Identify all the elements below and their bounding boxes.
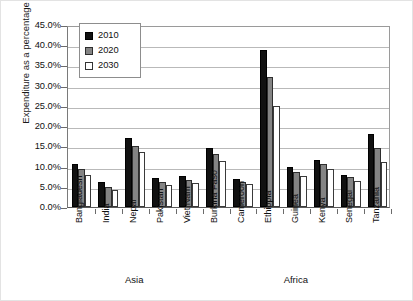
bar-ethiopia-2030[interactable] [273,106,280,207]
bar-ethiopia-2020[interactable] [267,77,274,207]
y-axis-tick-label: 15.0% [15,142,61,151]
y-axis-tick-label: 20.0% [15,122,61,131]
gridline [68,88,389,89]
bar-cameroon-2030[interactable] [246,184,253,207]
y-axis-tick-label: 45.0% [15,21,61,30]
y-axis-tick-label: 30.0% [15,82,61,91]
legend-item-2020[interactable]: 2020 [85,43,135,58]
x-axis-tick-mark [337,209,338,214]
legend-swatch-2020 [85,47,93,55]
x-axis-label-viet-nam: Viet Nam [183,186,192,223]
x-axis-tick-mark [95,209,96,214]
legend-item-2010[interactable]: 2010 [85,28,135,43]
bar-nepal-2020[interactable] [132,146,139,207]
x-axis-tick-mark [256,209,257,214]
x-axis-label-nepal: Nepal [129,199,138,223]
bar-group [122,138,149,207]
region-label-africa: Africa [256,274,336,285]
bar-burkina-faso-2030[interactable] [219,161,226,208]
chart-legend: 201020202030 [79,23,141,78]
bar-guinea-2030[interactable] [300,176,307,207]
bar-tanzania-2030[interactable] [381,162,388,207]
legend-label-2030: 2030 [98,61,119,70]
x-axis-tick-mark [149,209,150,214]
x-axis-tick-mark [364,209,365,214]
bar-ethiopia-2010[interactable] [260,50,267,207]
x-axis-tick-mark [230,209,231,214]
y-axis-tick-label: 10.0% [15,163,61,172]
y-axis-tick-label: 25.0% [15,102,61,111]
y-axis-tick-label: 0.0% [15,203,61,212]
y-axis-tick-label: 40.0% [15,41,61,50]
x-axis-tick-mark [203,209,204,214]
y-axis-tick-label: 5.0% [15,183,61,192]
bar-nepal-2030[interactable] [139,152,146,207]
x-axis-label-guinea: Guinea [291,194,300,223]
x-axis-tick-mark [122,209,123,214]
legend-swatch-2030 [85,62,93,70]
x-axis-label-ethiopia: Ethiopia [264,190,273,223]
x-axis-tick-mark [283,209,284,214]
bar-bangladesh-2030[interactable] [85,175,92,207]
x-axis-label-burkina-faso: Burkina Faso [210,170,219,223]
x-axis-label-senegal: Senegal [345,190,354,223]
chart-figure: Expenditure as a percentage of GDP 45.0%… [0,0,413,301]
legend-label-2020: 2020 [98,46,119,55]
x-axis-tick-mark [310,209,311,214]
x-axis-label-cameroon: Cameroon [237,181,246,223]
bar-group [256,50,283,207]
bar-pakistan-2030[interactable] [166,185,173,207]
x-axis-tick-mark [391,209,392,214]
gridline [68,108,389,109]
x-axis-label-india: India [102,203,111,223]
legend-swatch-2010 [85,32,93,40]
bar-kenya-2030[interactable] [327,169,334,207]
y-axis-tick-label: 35.0% [15,61,61,70]
legend-item-2030[interactable]: 2030 [85,58,135,73]
bar-senegal-2030[interactable] [354,181,361,207]
y-axis-tick-mark [61,208,67,209]
x-axis-label-kenya: Kenya [318,197,327,223]
x-axis-label-bangladesh: Bangladesh [75,175,84,223]
bar-viet-nam-2030[interactable] [192,183,199,207]
gridline [68,128,389,129]
legend-label-2010: 2010 [98,31,119,40]
x-axis-label-tanzania: Tanzania [372,187,381,223]
x-axis-label-pakistan: Pakistan [156,188,165,223]
region-label-asia: Asia [94,274,174,285]
bar-india-2030[interactable] [112,190,119,207]
bar-nepal-2010[interactable] [125,138,132,207]
x-axis-tick-mark [176,209,177,214]
